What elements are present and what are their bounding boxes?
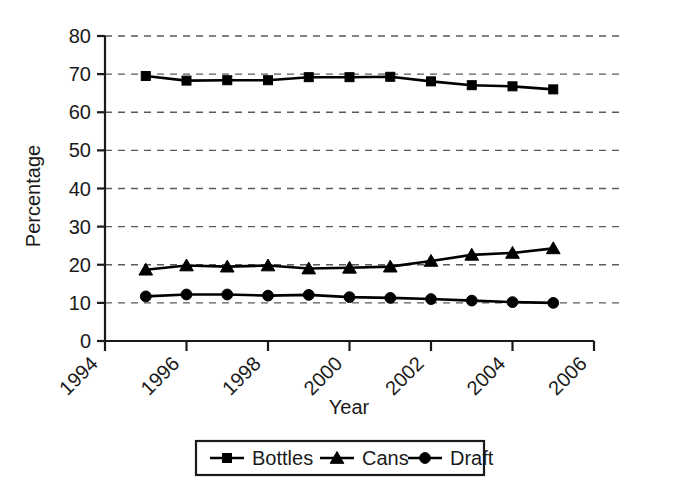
legend-marker-draft — [420, 453, 431, 464]
data-point-bottles-2005 — [549, 85, 558, 94]
y-tick-label-50: 50 — [69, 139, 91, 161]
data-point-draft-1999 — [303, 289, 314, 300]
data-point-draft-2000 — [344, 292, 355, 303]
y-tick-labels: 01020304050607080 — [69, 25, 91, 352]
chart-figure: 01020304050607080 1994199619982000200220… — [0, 0, 677, 496]
data-point-draft-2003 — [466, 295, 477, 306]
legend-label-bottles: Bottles — [252, 447, 313, 469]
chart-legend[interactable]: BottlesCansDraft — [196, 441, 494, 475]
y-tick-label-10: 10 — [69, 292, 91, 314]
y-tick-label-80: 80 — [69, 25, 91, 47]
y-axis-title: Percentage — [22, 145, 44, 247]
line-chart: 01020304050607080 1994199619982000200220… — [0, 0, 677, 496]
data-point-draft-1996 — [181, 289, 192, 300]
y-tick-label-40: 40 — [69, 178, 91, 200]
x-axis-title: Year — [329, 396, 370, 418]
legend-marker-bottles — [223, 454, 232, 463]
data-point-draft-1997 — [222, 289, 233, 300]
data-point-draft-2004 — [507, 297, 518, 308]
data-point-bottles-2000 — [345, 73, 354, 82]
data-point-bottles-1997 — [223, 76, 232, 85]
data-point-bottles-2001 — [386, 72, 395, 81]
y-tick-label-30: 30 — [69, 216, 91, 238]
y-tick-label-20: 20 — [69, 254, 91, 276]
data-point-draft-1998 — [263, 290, 274, 301]
y-tick-label-70: 70 — [69, 63, 91, 85]
legend-label-cans: Cans — [362, 447, 409, 469]
data-point-bottles-1996 — [182, 76, 191, 85]
data-point-bottles-2003 — [467, 81, 476, 90]
y-tick-label-60: 60 — [69, 101, 91, 123]
data-point-bottles-1998 — [264, 76, 273, 85]
data-point-bottles-2002 — [427, 77, 436, 86]
data-point-draft-2005 — [548, 297, 559, 308]
data-point-bottles-2004 — [508, 82, 517, 91]
data-point-bottles-1995 — [141, 72, 150, 81]
data-point-draft-1995 — [140, 291, 151, 302]
data-point-draft-2001 — [385, 293, 396, 304]
legend-label-draft: Draft — [450, 447, 494, 469]
data-point-bottles-1999 — [304, 73, 313, 82]
data-point-draft-2002 — [426, 294, 437, 305]
y-tick-label-0: 0 — [80, 330, 91, 352]
